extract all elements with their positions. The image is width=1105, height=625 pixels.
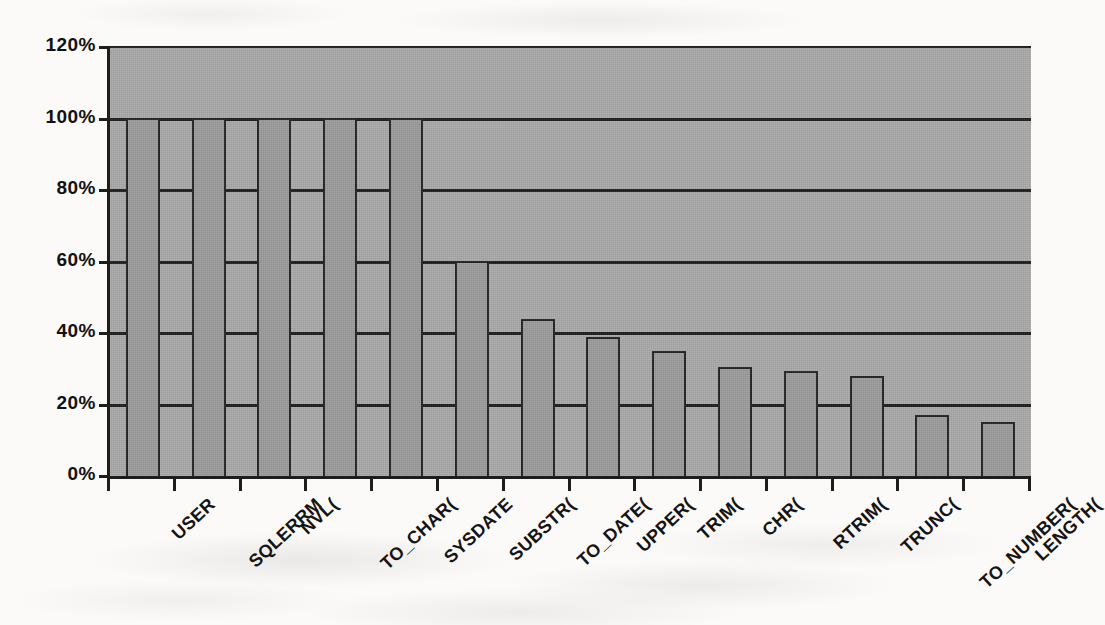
y-axis-tick-mark <box>99 404 110 407</box>
y-axis-tick-mark <box>99 332 110 335</box>
x-axis-category-label: TRUNC( <box>897 494 963 558</box>
bar <box>257 118 291 476</box>
x-axis-tick-mark <box>765 479 768 491</box>
bar <box>192 118 226 476</box>
bar <box>521 319 555 476</box>
bar <box>455 261 489 476</box>
y-axis-tick-mark <box>99 118 110 121</box>
x-axis-tick-mark <box>699 479 702 491</box>
x-axis-tick-mark <box>568 479 571 491</box>
x-axis-category-label: RTRIM( <box>829 494 891 554</box>
x-axis-category-label: USER <box>168 494 220 544</box>
bar <box>784 371 818 476</box>
bar <box>981 422 1015 476</box>
x-axis-tick-mark <box>1028 479 1031 491</box>
x-axis-category-label: TRIM( <box>694 494 746 544</box>
x-axis-tick-mark <box>239 479 242 491</box>
x-axis-tick-mark <box>107 479 110 491</box>
x-axis-category-label: TO_CHAR( <box>377 494 461 574</box>
x-axis-tick-mark <box>370 479 373 491</box>
y-axis-tick-label: 40% <box>34 320 96 342</box>
x-axis-category-label: CHR( <box>758 494 806 541</box>
y-axis: 0%20%40%60%80%100%120% <box>28 0 96 625</box>
bar <box>126 118 160 476</box>
bar <box>652 351 686 476</box>
y-axis-tick-mark <box>99 475 110 478</box>
x-axis-tick-mark <box>436 479 439 491</box>
y-axis-tick-label: 0% <box>34 463 96 485</box>
bars-layer <box>110 47 1031 476</box>
plot-area <box>107 47 1031 479</box>
bar <box>915 415 949 476</box>
y-axis-tick-label: 120% <box>34 34 96 56</box>
y-axis-tick-mark <box>99 46 110 49</box>
y-axis-tick-label: 60% <box>34 249 96 271</box>
y-axis-tick-label: 100% <box>34 106 96 128</box>
y-axis-tick-label: 80% <box>34 177 96 199</box>
bar <box>586 337 620 476</box>
x-axis-category-label: SUBSTR( <box>505 494 579 565</box>
bar <box>718 367 752 476</box>
x-axis-tick-mark <box>633 479 636 491</box>
x-axis-tick-mark <box>173 479 176 491</box>
bar <box>850 376 884 476</box>
bar <box>323 118 357 476</box>
y-axis-tick-mark <box>99 189 110 192</box>
x-axis-tick-mark <box>831 479 834 491</box>
x-axis-tick-mark <box>304 479 307 491</box>
x-axis-tick-mark <box>502 479 505 491</box>
x-axis-tick-mark <box>896 479 899 491</box>
y-axis-tick-label: 20% <box>34 392 96 414</box>
y-axis-tick-mark <box>99 261 110 264</box>
x-axis-tick-mark <box>962 479 965 491</box>
bar <box>389 118 423 476</box>
